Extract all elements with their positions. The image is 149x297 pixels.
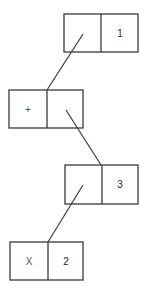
cell-2-box	[9, 90, 83, 128]
cons-cell-2: +	[9, 90, 83, 128]
cell-4-cdr: 2	[63, 256, 69, 267]
cons-cell-4: X 2	[10, 242, 83, 280]
cons-cell-3: 3	[65, 165, 138, 204]
cell-2-car: +	[25, 104, 31, 115]
cons-cell-diagram: 1 + 3 X 2	[0, 0, 149, 297]
cell-3-cdr: 3	[117, 179, 123, 190]
cell-1-cdr: 1	[117, 28, 123, 39]
cell-4-car: X	[26, 256, 33, 267]
cell-4-box	[10, 242, 83, 280]
